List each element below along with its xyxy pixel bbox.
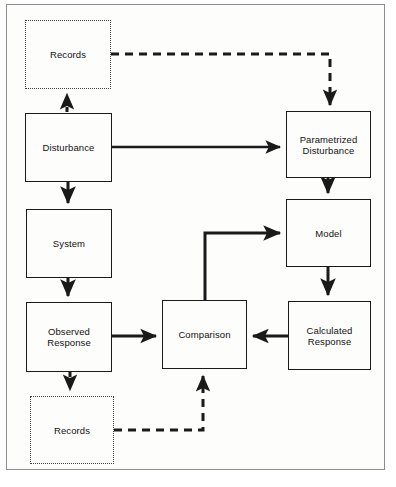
node-system-label: System (51, 238, 87, 249)
node-observed-response[interactable]: Observed Response (26, 302, 112, 372)
connector-comparison-to-model (205, 233, 280, 300)
node-comparison-label: Comparison (176, 329, 232, 340)
node-model-label: Model (313, 228, 343, 239)
connector-records-top-to-parametrized (111, 54, 330, 105)
node-system[interactable]: System (26, 209, 112, 278)
node-parametrized-disturbance[interactable]: Parametrized Disturbance (286, 111, 371, 178)
node-calculated-response[interactable]: Calculated Response (288, 301, 371, 370)
diagram-canvas: Records Disturbance Parametrized Disturb… (0, 0, 396, 487)
node-disturbance[interactable]: Disturbance (25, 113, 112, 182)
node-records-top-label: Records (48, 49, 88, 60)
node-parametrized-disturbance-label: Parametrized Disturbance (298, 134, 360, 156)
node-comparison[interactable]: Comparison (162, 300, 247, 369)
node-model[interactable]: Model (286, 199, 371, 267)
node-records-bottom-label: Records (52, 425, 92, 436)
node-calculated-response-label: Calculated Response (305, 325, 355, 347)
node-disturbance-label: Disturbance (41, 142, 97, 153)
node-observed-response-label: Observed Response (45, 326, 93, 348)
connector-records-bottom-to-comparison (114, 376, 203, 430)
node-records-bottom[interactable]: Records (30, 396, 114, 464)
node-records-top[interactable]: Records (25, 20, 111, 89)
